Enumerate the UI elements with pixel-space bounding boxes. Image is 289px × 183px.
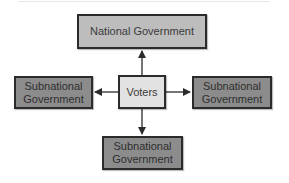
subnational-bottom-line1: Subnational <box>112 140 173 153</box>
voters-box: Voters <box>118 75 166 109</box>
subnational-right-line1: Subnational <box>202 80 263 93</box>
subnational-left-line1: Subnational <box>23 80 84 93</box>
subnational-government-bottom-box: Subnational Government <box>102 136 183 170</box>
subnational-government-right-box: Subnational Government <box>192 76 272 109</box>
subnational-bottom-line2: Government <box>112 153 173 166</box>
national-government-label: National Government <box>90 25 194 38</box>
national-government-box: National Government <box>77 14 207 49</box>
subnational-left-line2: Government <box>23 93 84 106</box>
subnational-government-left-box: Subnational Government <box>14 76 93 109</box>
subnational-right-line2: Government <box>202 93 263 106</box>
voters-label: Voters <box>126 86 157 99</box>
